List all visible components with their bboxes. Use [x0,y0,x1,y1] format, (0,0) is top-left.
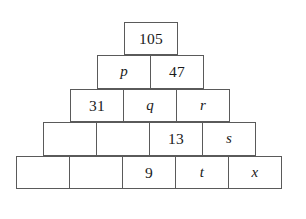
pyramid-cell: s [202,122,256,156]
pyramid-row-3: 31 q r [70,89,229,123]
pyramid-cell: q [123,89,177,123]
pyramid-cell: r [176,89,230,123]
cell-value: r [200,98,206,113]
pyramid-cell [43,122,97,156]
pyramid-cell: t [175,156,229,190]
cell-value: 9 [145,165,153,181]
cell-value: 31 [89,98,105,114]
cell-value: 105 [139,31,163,47]
pyramid-cell [96,122,150,156]
number-pyramid-figure: 105 p 47 31 q r 13 s [0,0,306,219]
cell-value: t [200,165,204,180]
pyramid-cell [69,156,123,190]
cell-value: s [226,131,232,146]
pyramid-cell: 9 [122,156,176,190]
pyramid-cell: p [97,55,151,89]
pyramid-cell: x [228,156,282,190]
pyramid-cell: 105 [124,22,178,56]
cell-value: 13 [168,131,184,147]
pyramid-cell [16,156,70,190]
cell-value: x [252,165,259,180]
pyramid-cell: 47 [150,55,204,89]
pyramid-row-4: 13 s [43,122,255,156]
pyramid-row-5: 9 t x [16,156,281,190]
pyramid-row-1: 105 [124,22,177,56]
pyramid-row-2: p 47 [97,55,203,89]
cell-value: q [146,98,154,113]
cell-value: 47 [169,64,185,80]
pyramid-cell: 13 [149,122,203,156]
pyramid-cell: 31 [70,89,124,123]
cell-value: p [120,64,128,79]
